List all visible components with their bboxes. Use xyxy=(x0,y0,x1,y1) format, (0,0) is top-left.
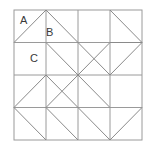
quilt-block-svg: ABC xyxy=(0,0,154,147)
label-c: C xyxy=(30,52,38,64)
label-a: A xyxy=(20,14,28,26)
label-b: B xyxy=(46,26,53,38)
quilt-block-diagram: ABC xyxy=(0,0,154,147)
